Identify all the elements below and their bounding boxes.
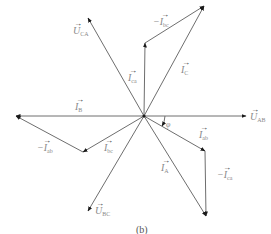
label-u-ca: →UCA xyxy=(73,26,89,37)
vector-arrow-icon: → xyxy=(129,67,137,75)
vector-arrow-icon: → xyxy=(161,11,169,19)
vector-arrow-icon: → xyxy=(96,200,104,208)
vector-arrow-icon: → xyxy=(74,20,82,28)
label-i-b: →IB xyxy=(75,102,82,113)
label-neg-i-ca: →−Ica xyxy=(217,170,232,181)
label-i-bc: →Ibc xyxy=(104,143,113,154)
label-u-bc: →UBC xyxy=(95,206,110,217)
label-i-c: →IC xyxy=(181,65,188,76)
vector-arrow-icon: → xyxy=(251,106,259,114)
label-neg-i-ab: →−Iab xyxy=(37,143,53,154)
figure-caption: (b) xyxy=(136,224,148,234)
phasor-neg-i-ca xyxy=(205,151,206,216)
vector-arrow-icon: → xyxy=(182,59,190,67)
vector-arrow-icon: → xyxy=(43,137,51,145)
phasor-diagram xyxy=(0,0,271,234)
vector-arrow-icon: → xyxy=(200,124,208,132)
vector-arrow-icon: → xyxy=(162,157,170,165)
origin-point xyxy=(142,114,145,117)
label-neg-i-bc: →−Ibc xyxy=(153,17,169,28)
label-u-ab: →UAB xyxy=(250,112,266,123)
label-i-ab: →Iab xyxy=(199,130,208,141)
vector-arrow-icon: → xyxy=(223,164,231,172)
phi-angle-arc xyxy=(162,116,165,126)
label-phi: φ xyxy=(166,121,170,129)
phasor-i-bc xyxy=(83,116,144,152)
phasor-i-ca xyxy=(144,43,145,116)
vector-arrow-icon: → xyxy=(76,96,84,104)
phasor-i-ab xyxy=(144,116,205,151)
phasor-u-bc xyxy=(88,116,144,211)
phasor-i-a xyxy=(144,116,206,216)
label-i-a: →IA xyxy=(161,163,169,174)
label-i-ca: →Ica xyxy=(128,73,137,84)
vector-arrow-icon: → xyxy=(105,137,113,145)
